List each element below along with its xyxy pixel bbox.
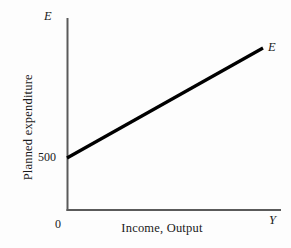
y-axis-symbol-label: E xyxy=(44,10,52,23)
chart-plot-area xyxy=(0,0,291,248)
x-axis-title: Income, Output xyxy=(67,222,257,235)
expenditure-line-label: E xyxy=(268,41,276,54)
y-axis-title: Planned expenditure xyxy=(22,47,35,207)
x-axis-symbol-label: Y xyxy=(269,214,276,227)
origin-label: 0 xyxy=(55,218,61,230)
y-intercept-value-label: 500 xyxy=(38,151,56,163)
expenditure-chart-figure: Planned expenditure Income, Output E Y E… xyxy=(0,0,291,248)
